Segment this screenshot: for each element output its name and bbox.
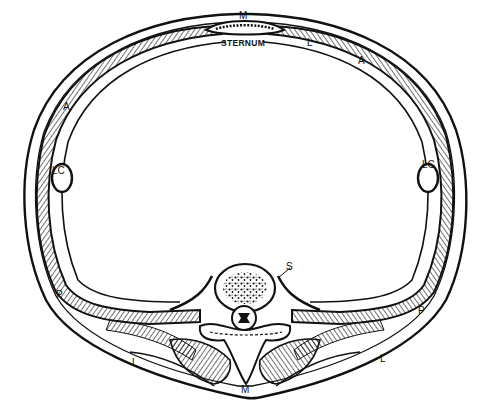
label-m-top: M (239, 10, 247, 21)
label-l-bottom-right: L (380, 353, 386, 364)
label-p-right: P (418, 305, 425, 316)
label-lc-right: LC (422, 159, 435, 170)
label-lc-left: LC (52, 165, 65, 176)
label-m-bottom: M (241, 384, 249, 395)
thorax-cross-section-diagram: M STERNUM L A A LC LC S P P L L M (0, 0, 490, 408)
label-s: S (286, 261, 293, 272)
label-l-bottom-left: L (132, 357, 138, 368)
label-l-top-right: L (307, 37, 313, 48)
label-a-right: A (358, 55, 365, 66)
label-sternum: STERNUM (221, 38, 265, 48)
label-a-left: A (63, 101, 70, 112)
label-p-left: P (56, 289, 63, 300)
